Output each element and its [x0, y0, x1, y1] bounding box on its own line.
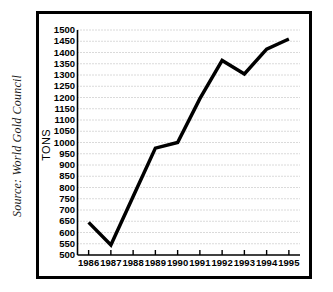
data-line [89, 39, 289, 245]
data-line-series [89, 39, 289, 245]
chart-plot-area [0, 0, 333, 292]
gridlines [78, 30, 301, 244]
chart-figure: Source: World Gold Council TONS 15001450… [0, 0, 333, 292]
